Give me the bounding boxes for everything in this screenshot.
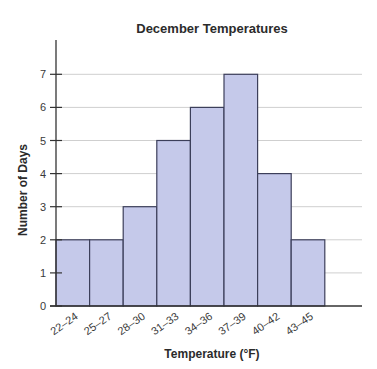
- y-tick-label: 4: [40, 168, 46, 180]
- histogram-bar: [123, 207, 157, 306]
- histogram-chart: December Temperatures 01234567 22–2425–2…: [0, 0, 377, 369]
- x-tick-label: 28–30: [115, 310, 147, 337]
- x-tick-label: 43–45: [283, 310, 315, 337]
- y-tick-label: 7: [40, 68, 46, 80]
- x-axis-label: Temperature (°F): [164, 347, 259, 361]
- x-tick-label: 22–24: [48, 310, 80, 337]
- y-tick-label: 1: [40, 267, 46, 279]
- x-tick-label: 34–36: [182, 310, 214, 337]
- histogram-bar: [190, 107, 224, 306]
- bars: [56, 74, 325, 306]
- chart-title: December Temperatures: [136, 21, 288, 36]
- x-axis-ticks: 22–2425–2728–3031–3334–3637–3940–4243–45: [48, 310, 315, 337]
- histogram-bar: [224, 74, 258, 306]
- x-tick-label: 37–39: [216, 310, 248, 337]
- x-tick-label: 31–33: [149, 310, 181, 337]
- x-tick-label: 25–27: [82, 310, 114, 337]
- y-tick-label: 6: [40, 101, 46, 113]
- histogram-bar: [157, 141, 191, 307]
- y-tick-label: 5: [40, 135, 46, 147]
- histogram-bar: [258, 174, 292, 306]
- x-tick-label: 40–42: [250, 310, 282, 337]
- y-tick-label: 0: [40, 300, 46, 312]
- y-axis-label: Number of Days: [16, 144, 30, 236]
- histogram-bar: [90, 240, 124, 306]
- y-tick-label: 3: [40, 201, 46, 213]
- histogram-bar: [291, 240, 325, 306]
- y-tick-label: 2: [40, 234, 46, 246]
